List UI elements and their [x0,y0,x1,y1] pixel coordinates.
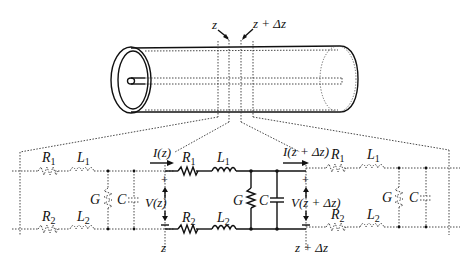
right-dotted-section: R1 L1 R2 L2 G C [306,147,460,235]
central-circuit-section: R1 L1 R2 L2 G C I(z) I(z + Δz) + V(z) + … [145,144,341,255]
label-L2-right: L2 [366,207,380,224]
label-C-left: C [117,192,127,207]
label-z-dz-bottom: z + Δz [294,240,328,255]
label-z-top: z [211,17,217,32]
label-G-left: G [90,192,100,207]
label-L1: L1 [216,150,230,167]
coaxial-cable [111,46,358,113]
label-R2: R2 [181,210,196,227]
label-I-out: I(z + Δz) [282,144,329,159]
plus-sign-out: + [302,173,309,187]
label-L1-left: L1 [76,150,90,167]
label-L1-right: L1 [366,147,380,164]
label-R1-left: R1 [41,150,56,167]
label-R1: R1 [181,150,196,167]
label-z-dz-top: z + Δz [252,16,286,31]
label-V-in: V(z) [145,195,167,210]
label-I-in: I(z) [152,145,171,160]
label-C: C [259,193,269,208]
label-L2-left: L2 [76,209,90,226]
transmission-line-diagram: z z + Δz [0,0,469,265]
label-R2-left: R2 [41,209,56,226]
projection-lines [20,117,449,152]
label-G-right: G [382,190,392,205]
position-labels-top: z z + Δz [211,16,286,40]
label-z-bottom: z [160,240,166,255]
label-L2: L2 [216,210,230,227]
label-R1-right: R1 [330,147,345,164]
plus-sign-in: + [161,173,168,187]
label-G: G [233,193,243,208]
label-R2-right: R2 [330,207,345,224]
label-C-right: C [409,190,419,205]
